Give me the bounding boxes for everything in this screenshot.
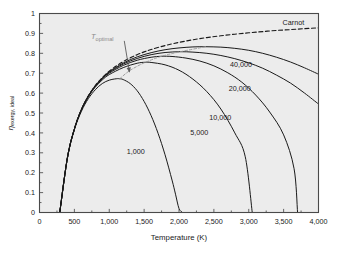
x-tick-label: 3,500 [275, 217, 293, 226]
curve-label-Carnot: Carnot [283, 18, 305, 27]
curve-label-concentration-1000: 1,000 [127, 147, 145, 156]
x-tick-label: 0 [38, 217, 42, 226]
y-tick-label: 0.4 [25, 129, 35, 138]
exergy-efficiency-chart: 05001,0001,5002,0002,5003,0003,5004,0000… [0, 0, 338, 255]
x-axis-title: Temperature (K) [151, 233, 208, 242]
x-tick-label: 2,000 [170, 217, 188, 226]
y-tick-label: 1 [31, 9, 35, 18]
curve-label-concentration-20000: 20,000 [229, 84, 251, 93]
x-tick-label: 500 [68, 217, 80, 226]
y-tick-label: 0.2 [25, 168, 35, 177]
curve-label-concentration-5000: 5,000 [190, 128, 208, 137]
y-tick-label: 0 [31, 208, 35, 217]
y-tick-label: 0.1 [25, 188, 35, 197]
x-tick-label: 2,500 [205, 217, 223, 226]
plot-area [40, 14, 319, 213]
y-tick-label: 0.3 [25, 148, 35, 157]
x-tick-label: 1,000 [100, 217, 118, 226]
x-tick-label: 4,000 [310, 217, 328, 226]
x-tick-label: 3,000 [240, 217, 258, 226]
plot-background [40, 14, 319, 213]
curve-label-concentration-10000: 10,000 [209, 113, 231, 122]
curve-label-concentration-40000: 40,000 [230, 60, 252, 69]
figure-container: 05001,0001,5002,0002,5003,0003,5004,0000… [0, 0, 338, 255]
y-tick-label: 0.7 [25, 69, 35, 78]
y-tick-label: 0.6 [25, 89, 35, 98]
y-tick-label: 0.5 [25, 109, 35, 118]
y-tick-label: 0.9 [25, 29, 35, 38]
y-tick-label: 0.8 [25, 49, 35, 58]
x-tick-label: 1,500 [135, 217, 153, 226]
